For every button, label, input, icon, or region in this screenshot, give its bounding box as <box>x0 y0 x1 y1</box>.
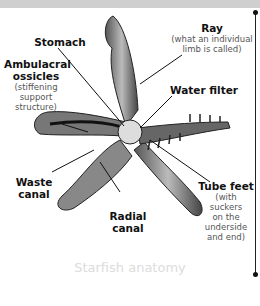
figure-caption: Starfish anatomy <box>0 260 260 275</box>
label-ambulacral-ossicles: Ambulacral ossicles (stiffening support … <box>4 58 68 112</box>
label-radial-canal: Radial canal <box>104 210 152 234</box>
ray-lower-left <box>58 140 132 210</box>
label-waste-canal: Waste canal <box>12 176 56 200</box>
label-tube-feet: Tube feet (with suckers on the underside… <box>198 180 254 242</box>
label-stomach: Stomach <box>30 36 90 48</box>
label-ray: Ray (what an individual limb is called) <box>170 22 254 54</box>
label-water-filter: Water filter <box>164 84 244 96</box>
